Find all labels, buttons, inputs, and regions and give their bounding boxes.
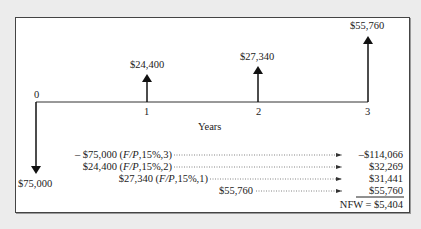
calc-prefix: $55,760 <box>219 185 253 196</box>
calc-row-0: – $75,000 (F/P,15%,3) –$114,066 <box>74 149 403 161</box>
calc-prefix: $24,400 ( <box>83 161 124 173</box>
svg-text:$27,340 (F/P,15%,1): $27,340 (F/P,15%,1) <box>119 173 209 185</box>
svg-text:$24,400 (F/P,15%,2): $24,400 (F/P,15%,2) <box>83 161 173 173</box>
calc-suffix: ,15%,1) <box>175 173 209 185</box>
cash-flow-diagram: 0 1 2 3 Years $75,000 $24,400 $27,340 $5… <box>0 0 421 229</box>
nfw-total: NFW = $5,404 <box>340 199 404 210</box>
axis-label-years: Years <box>198 121 221 132</box>
cash-flow-label-0: $75,000 <box>18 178 52 189</box>
calc-result: –$114,066 <box>358 149 403 160</box>
calc-result: $32,269 <box>369 161 403 172</box>
cash-flow-label-3: $55,760 <box>350 20 384 31</box>
cash-flow-label-1: $24,400 <box>130 59 164 70</box>
cash-flow-label-2: $27,340 <box>240 51 274 62</box>
period-label-0: 0 <box>34 89 39 100</box>
calc-row-2: $27,340 (F/P,15%,1) $31,441 <box>119 173 403 185</box>
calc-factor: F/P <box>158 173 175 184</box>
calc-suffix: ,15%,2) <box>139 161 173 173</box>
period-label-1: 1 <box>144 106 149 117</box>
period-label-2: 2 <box>256 106 261 117</box>
calc-factor: F/P <box>122 161 139 172</box>
calc-prefix: $27,340 ( <box>119 173 160 185</box>
calc-suffix: ,15%,3) <box>139 149 173 161</box>
calc-row-1: $24,400 (F/P,15%,2) $32,269 <box>83 161 403 173</box>
svg-text:– $75,000 (F/P,15%,3): – $75,000 (F/P,15%,3) <box>74 149 173 161</box>
calc-row-3: $55,760 $55,760 <box>219 185 403 196</box>
period-label-3: 3 <box>365 106 370 117</box>
calc-prefix: – $75,000 ( <box>74 149 124 161</box>
calc-result: $31,441 <box>369 173 403 184</box>
calc-result: $55,760 <box>369 185 403 196</box>
calc-factor: F/P <box>122 149 139 160</box>
